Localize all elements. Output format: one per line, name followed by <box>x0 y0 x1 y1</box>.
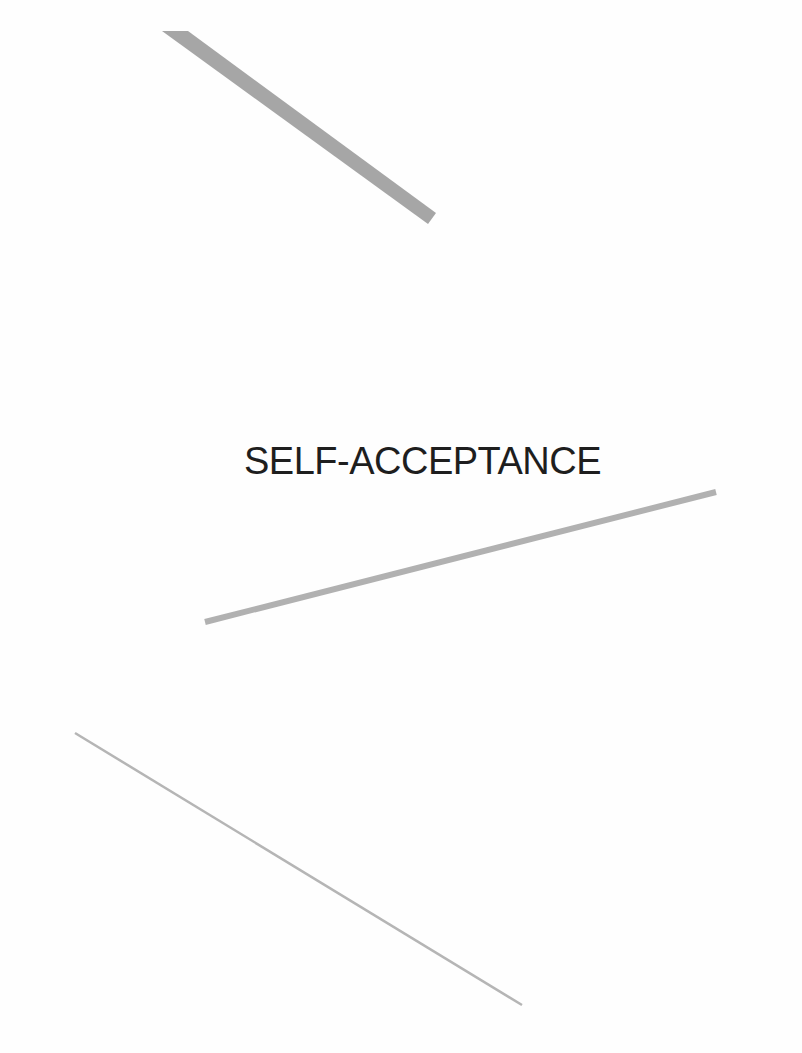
bottom-diagonal-line <box>75 733 522 1005</box>
decorative-lines <box>0 0 802 1053</box>
page-title: SELF-ACCEPTANCE <box>0 438 802 484</box>
middle-diagonal-line <box>205 492 716 622</box>
top-diagonal-band <box>162 31 436 224</box>
